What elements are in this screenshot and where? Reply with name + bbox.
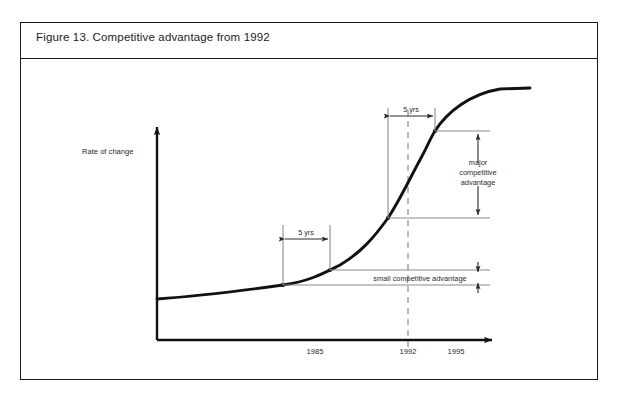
- major-advantage-annotation: major competitive advantage: [388, 131, 497, 218]
- major-advantage-label-line3: advantage: [461, 178, 496, 187]
- major-advantage-label-line1: major: [469, 158, 488, 167]
- chart-canvas: Rate of change 1985 1992 1995 5 yrs: [0, 0, 617, 399]
- axis-group: [157, 127, 492, 340]
- lower-interval-label: 5 yrs: [298, 228, 314, 237]
- y-axis-label: Rate of change: [82, 147, 134, 156]
- figure-container: Figure 13. Competitive advantage from 19…: [0, 0, 617, 399]
- upper-interval-label: 5 yrs: [403, 105, 419, 114]
- major-advantage-label-line2: competitive: [459, 168, 496, 177]
- lower-interval-annotation: 5 yrs: [283, 225, 330, 285]
- x-tick-labels: 1985 1992 1995: [307, 347, 465, 356]
- curve-marker-points: [281, 129, 437, 287]
- x-tick-label-1995: 1995: [448, 347, 465, 356]
- small-advantage-label: small competitive advantage: [373, 274, 466, 283]
- x-tick-label-1985: 1985: [307, 347, 324, 356]
- upper-interval-annotation: 5 yrs: [388, 105, 435, 218]
- x-tick-label-1992: 1992: [400, 347, 417, 356]
- s-curve-line: [157, 88, 530, 299]
